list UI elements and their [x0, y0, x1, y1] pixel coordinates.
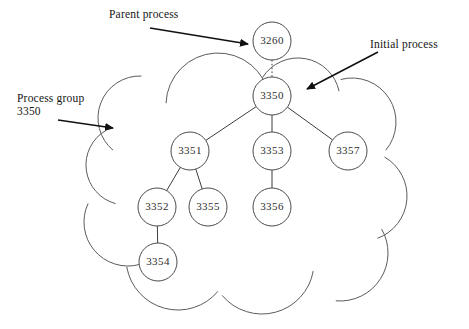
annotation-initial-process-line1: Initial process	[370, 38, 438, 50]
process-node-label-3350: 3350	[260, 89, 284, 101]
process-node-3357[interactable]: 3357	[329, 132, 367, 170]
cloud-arc-9	[98, 76, 141, 150]
process-node-3352[interactable]: 3352	[138, 188, 176, 226]
edge-3350-to-3357	[287, 107, 332, 140]
edge-3351-to-3352	[167, 167, 181, 190]
annotation-arrow-initial-process	[307, 52, 378, 89]
annotation-process-group-line1: Process group	[17, 92, 84, 104]
process-node-label-3354: 3354	[146, 255, 170, 267]
cloud-arc-8	[86, 130, 116, 203]
annotation-parent-process-line1: Parent process	[109, 8, 179, 20]
process-node-3260[interactable]: 3260	[253, 22, 291, 60]
process-node-label-3355: 3355	[196, 200, 220, 212]
annotation-arrow-process-group	[58, 120, 113, 128]
process-node-label-3351: 3351	[178, 144, 202, 156]
annotation-process-group-line2: 3350	[17, 105, 84, 118]
process-node-label-3353: 3353	[260, 144, 284, 156]
process-node-3356[interactable]: 3356	[253, 188, 291, 226]
process-node-3353[interactable]: 3353	[253, 132, 291, 170]
process-node-3350[interactable]: 3350	[253, 77, 291, 115]
annotation-label-process-group: Process group 3350	[17, 92, 84, 118]
annotation-arrows	[58, 28, 378, 128]
process-node-3354[interactable]: 3354	[139, 243, 177, 281]
process-nodes: 326033503351335333573352335533563354	[138, 22, 367, 281]
process-group-cloud-boundary	[84, 53, 407, 314]
cloud-arc-3	[377, 157, 407, 238]
process-node-label-3352: 3352	[145, 200, 169, 212]
process-node-3355[interactable]: 3355	[189, 188, 227, 226]
process-group-diagram: 326033503351335333573352335533563354 Par…	[0, 0, 469, 329]
cloud-arc-5	[222, 271, 313, 314]
edge-3351-to-3355	[196, 169, 202, 189]
cloud-arc-4	[336, 229, 388, 301]
annotation-label-parent-process: Parent process	[109, 8, 179, 21]
annotation-label-initial-process: Initial process	[370, 38, 438, 51]
process-node-3351[interactable]: 3351	[171, 132, 209, 170]
annotation-arrow-parent-process	[150, 28, 248, 44]
process-node-label-3357: 3357	[336, 144, 360, 156]
edge-3350-to-3351	[206, 107, 256, 141]
process-node-label-3260: 3260	[260, 34, 284, 46]
cloud-arc-7	[84, 203, 139, 266]
process-node-label-3356: 3356	[260, 200, 284, 212]
